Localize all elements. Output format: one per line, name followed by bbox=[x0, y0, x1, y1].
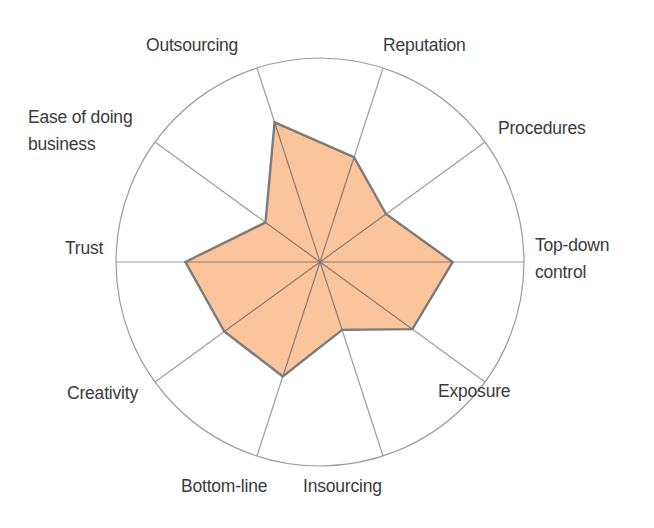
axis-label-insourcing: Insourcing bbox=[303, 473, 382, 500]
axis-label-trust: Trust bbox=[65, 235, 103, 262]
axis-label-ease_of_doing_business: Ease of doingbusiness bbox=[28, 104, 132, 158]
axis-label-line: Ease of doing bbox=[28, 104, 132, 131]
axis-label-procedures: Procedures bbox=[498, 115, 586, 142]
axis-label-line: Reputation bbox=[383, 32, 466, 59]
axis-label-line: control bbox=[535, 259, 609, 286]
axis-label-top_down_control: Top-downcontrol bbox=[535, 232, 609, 286]
axis-label-reputation: Reputation bbox=[383, 32, 466, 59]
radar-chart: Top-downcontrolProceduresReputationOutso… bbox=[0, 0, 654, 528]
axis-label-line: Creativity bbox=[67, 380, 138, 407]
axis-label-exposure: Exposure bbox=[438, 378, 510, 405]
axis-label-line: business bbox=[28, 131, 132, 158]
axis-label-line: Trust bbox=[65, 235, 103, 262]
axis-label-line: Bottom-line bbox=[181, 473, 267, 500]
data-polygon bbox=[185, 122, 452, 376]
axis-label-bottom_line: Bottom-line bbox=[181, 473, 267, 500]
axis-label-line: Procedures bbox=[498, 115, 586, 142]
axis-label-creativity: Creativity bbox=[67, 380, 138, 407]
axis-label-line: Outsourcing bbox=[146, 32, 238, 59]
axis-label-line: Insourcing bbox=[303, 473, 382, 500]
axis-label-line: Top-down bbox=[535, 232, 609, 259]
axis-label-outsourcing: Outsourcing bbox=[146, 32, 238, 59]
axis-label-line: Exposure bbox=[438, 378, 510, 405]
